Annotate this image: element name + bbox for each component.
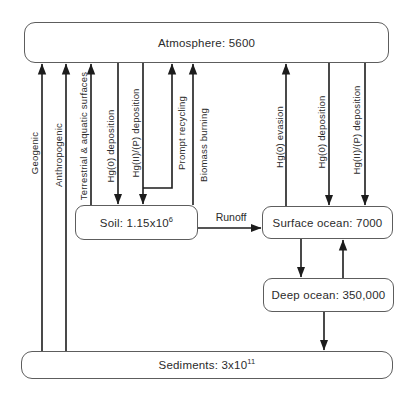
sediments-exponent: 11 [247, 357, 255, 366]
arrow-prompt-recycling [143, 64, 172, 188]
flow-label-terrestrial-aquatic-surfaces: Terrestrial & aquatic surfaces [78, 72, 89, 201]
flow-label-geogenic: Geogenic [29, 132, 40, 174]
flow-label-hg0-deposition-ocean: Hg(0) deposition [316, 96, 327, 169]
flow-label-hg2-deposition-ocean: Hg(II)/(P) deposition [351, 85, 362, 174]
flow-label-anthropogenic: Anthropogenic [53, 123, 64, 187]
mercury-cycle-diagram: Atmosphere: 5600 Soil: 1.15x106 Surface … [0, 0, 413, 398]
box-deep-ocean: Deep ocean: 350,000 [263, 278, 394, 312]
box-atmosphere: Atmosphere: 5600 [24, 22, 389, 63]
box-sediments-label: Sediments: 3x1011 [159, 359, 256, 371]
box-soil-label: Soil: 1.15x106 [100, 217, 173, 229]
box-surface-ocean: Surface ocean: 7000 [262, 206, 393, 239]
flow-label-runoff: Runoff [216, 211, 247, 223]
soil-exponent: 6 [169, 215, 173, 224]
flow-label-hg0-evasion: Hg(0) evasion [274, 106, 285, 168]
box-soil: Soil: 1.15x106 [75, 205, 198, 240]
box-atmosphere-label: Atmosphere: 5600 [158, 37, 255, 49]
box-surface-ocean-label: Surface ocean: 7000 [273, 217, 383, 229]
flow-label-biomass-burning: Biomass burning [198, 108, 209, 182]
box-deep-ocean-label: Deep ocean: 350,000 [272, 289, 386, 301]
flow-label-hg2-deposition-land: Hg(II)/(P) deposition [130, 88, 141, 177]
flow-label-hg0-deposition-land: Hg(0) deposition [105, 110, 116, 183]
flow-label-prompt-recycling: Prompt recycling [176, 96, 187, 170]
box-sediments: Sediments: 3x1011 [21, 351, 393, 379]
